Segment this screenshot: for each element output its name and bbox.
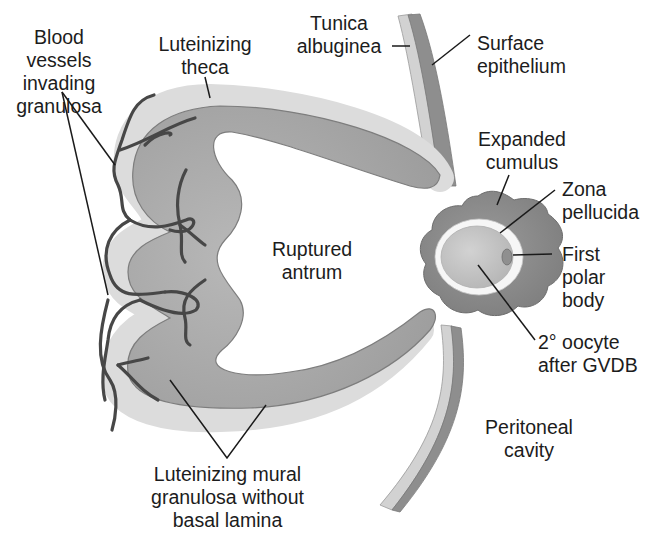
label-surface-epithelium: Surface epithelium bbox=[477, 32, 566, 78]
label-ruptured-antrum: Ruptured antrum bbox=[262, 238, 362, 284]
leader-first-polar-body bbox=[513, 254, 552, 255]
label-secondary-oocyte: 2° oocyte after GVDB bbox=[538, 331, 638, 377]
leader-surface-epithelium bbox=[432, 35, 470, 65]
label-peritoneal-cavity: Peritoneal cavity bbox=[474, 416, 584, 462]
label-tunica-albuginea: Tunica albuginea bbox=[284, 12, 394, 58]
label-luteinizing-theca: Luteinizing theca bbox=[145, 33, 265, 79]
label-blood-vessels: Blood vessels invading granulosa bbox=[0, 26, 118, 118]
ovulation-diagram: Blood vessels invading granulosa Luteini… bbox=[0, 0, 650, 541]
label-zona-pellucida: Zona pellucida bbox=[562, 178, 639, 224]
label-mural-granulosa: Luteinizing mural granulosa without basa… bbox=[140, 463, 315, 532]
label-first-polar-body: First polar body bbox=[562, 243, 605, 312]
first-polar-body bbox=[502, 249, 512, 265]
label-expanded-cumulus: Expanded cumulus bbox=[468, 128, 576, 174]
